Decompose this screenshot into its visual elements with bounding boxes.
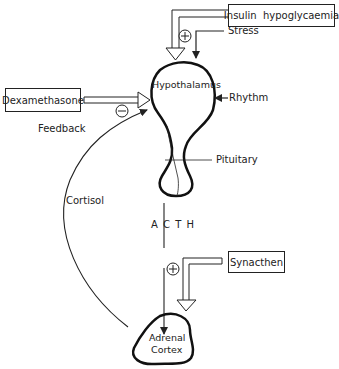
cortex-label: Cortex: [151, 344, 182, 356]
acth-label: A C T H: [151, 219, 195, 231]
insulin-hypoglycaemia-box: Insulin hypoglycaemia: [228, 4, 335, 27]
feedback-label: Feedback: [38, 123, 86, 135]
insulin-hollow-arrow: [166, 10, 228, 60]
stress-arrow: [196, 31, 224, 58]
pituitary-label: Pituitary: [216, 154, 258, 166]
dexamethasone-label: Dexamethasone: [2, 95, 84, 106]
synacthen-box: Synacthen: [228, 251, 285, 273]
dexamethasone-box: Dexamethasone: [5, 88, 81, 112]
synacthen-label: Synacthen: [230, 257, 283, 268]
insulin-hypoglycaemia-label: Insulin hypoglycaemia: [224, 10, 339, 21]
cortisol-label: Cortisol: [66, 195, 104, 207]
stress-label: Stress: [228, 25, 259, 37]
synacthen-hollow-arrow: [177, 258, 222, 311]
adrenal-label: Adrenal: [149, 332, 185, 344]
dexamethasone-hollow-arrow: [84, 92, 150, 108]
hypothalamus-label: Hypothalamus: [152, 79, 221, 91]
rhythm-label: Rhythm: [229, 92, 268, 104]
cortisol-feedback-curve: [64, 110, 147, 327]
